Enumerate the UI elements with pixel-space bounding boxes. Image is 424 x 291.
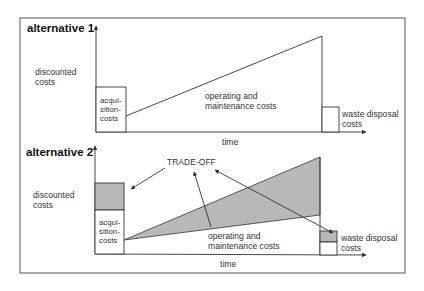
alt2-x-axis-label: time	[220, 260, 236, 270]
alt2-y-axis-label-line2: costs	[33, 201, 53, 211]
alt2-om-label-line2: maintenance costs	[208, 242, 280, 252]
alt1-acquisition-label-line2: sition-	[100, 105, 121, 114]
alt2-waste-extra	[320, 231, 337, 242]
alt1-title: alternative 1	[27, 22, 94, 35]
diagram-canvas: alternative 1 discounted costs acqui- si…	[0, 0, 424, 291]
alt1-waste-label-line2: costs	[342, 120, 362, 130]
alt2-waste-label-line2: costs	[341, 244, 361, 254]
alt1-acquisition-label-line3: costs	[100, 114, 118, 123]
alt2-acquisition-extra	[95, 183, 124, 210]
alternative-1-chart	[96, 26, 366, 132]
alt1-acquisition-label-line1: acqui-	[100, 96, 121, 105]
alt2-acquisition-label-line2: sition-	[99, 227, 120, 236]
alt2-title: alternative 2	[26, 146, 93, 159]
alt2-waste-bar	[320, 242, 337, 255]
alt1-waste-bar	[322, 107, 339, 132]
alt2-om-tradeoff-area	[124, 157, 320, 240]
tradeoff-arrow-acquisition	[131, 168, 165, 189]
alt1-x-axis-label: time	[222, 138, 238, 148]
alt1-om-label-line2: maintenance costs	[205, 102, 277, 112]
alt1-y-axis-label-line2: costs	[35, 78, 55, 88]
alt2-acquisition-label-line1: acqui-	[99, 218, 120, 227]
alt2-acquisition-label-line3: costs	[99, 236, 117, 245]
tradeoff-label: TRADE-OFF	[167, 158, 216, 168]
